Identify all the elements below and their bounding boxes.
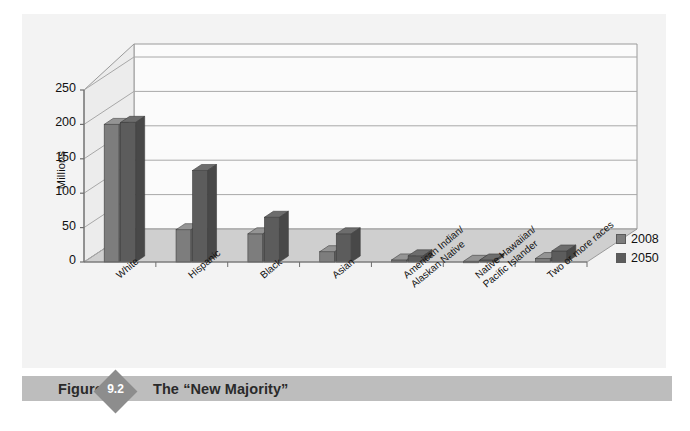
legend-label: 2008	[631, 232, 659, 246]
y-tick-label: 250	[42, 81, 76, 95]
bar-front	[193, 170, 208, 262]
x-axis-ticks-group	[156, 262, 587, 267]
chart-legend: 20082050	[616, 230, 690, 268]
figure-container: Millions 050100150200250 WhiteHispanicBl…	[0, 0, 690, 431]
bar-front	[320, 252, 335, 262]
legend-label: 2050	[631, 251, 659, 265]
bar-front	[121, 122, 136, 262]
bar-front	[176, 230, 191, 262]
legend-swatch-icon	[616, 234, 626, 244]
bar-side	[279, 211, 288, 262]
plot-box: Millions 050100150200250 WhiteHispanicBl…	[22, 14, 666, 368]
chart-area: Millions 050100150200250 WhiteHispanicBl…	[22, 14, 666, 368]
y-tick-label: 0	[42, 253, 76, 267]
bar-chart-svg	[22, 14, 666, 368]
y-tick-label: 200	[42, 115, 76, 129]
bar-side	[351, 228, 360, 262]
y-tick-label: 100	[42, 184, 76, 198]
figure-number-text: 9.2	[100, 376, 131, 401]
bar-front	[248, 234, 263, 262]
bar-side	[136, 116, 145, 262]
y-axis-title: Millions	[55, 125, 67, 215]
bar-front	[264, 217, 279, 262]
y-tick-label: 50	[42, 219, 76, 233]
caption-title-text: The “New Majority”	[153, 381, 289, 397]
legend-swatch-icon	[616, 253, 626, 263]
legend-item: 2008	[616, 230, 690, 247]
bar-front	[104, 124, 119, 262]
legend-item: 2050	[616, 249, 690, 266]
y-tick-label: 150	[42, 150, 76, 164]
